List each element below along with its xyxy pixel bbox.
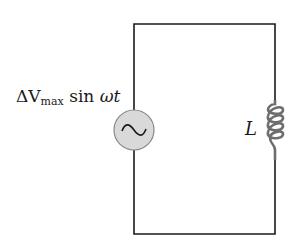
- inductor-label: L: [245, 118, 257, 139]
- source-label: ΔVmax sin ωt: [16, 86, 120, 108]
- inductor-coil: [268, 100, 283, 160]
- ac-source: [114, 110, 154, 150]
- wire-loop: [134, 24, 275, 110]
- wire-loop-bottom: [134, 150, 275, 234]
